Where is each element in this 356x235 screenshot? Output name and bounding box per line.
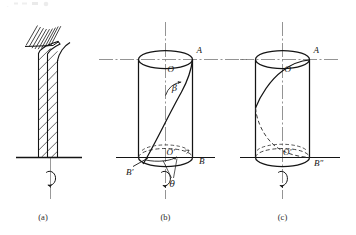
label-bottom-center-c: O′ xyxy=(283,147,292,157)
panel-c: O A O′ B″ (c) xyxy=(240,22,340,222)
figure-root: . xyxy=(0,0,356,235)
label-bottom-center-b: O′ xyxy=(167,147,176,157)
label-point-a-b: A xyxy=(196,45,203,55)
caption-c: (c) xyxy=(278,212,288,222)
column-right-edge-a xyxy=(58,43,71,158)
torque-arrow-a xyxy=(46,171,55,185)
panel-a: (a) xyxy=(16,26,82,223)
label-beta-b: β xyxy=(171,83,177,93)
label-point-bdprime-c: B″ xyxy=(314,158,323,168)
label-point-b-b: B xyxy=(199,156,205,166)
column-hatching-a xyxy=(39,49,59,158)
rotated-section-arc-c xyxy=(257,144,307,151)
label-point-bprime-b: B′ xyxy=(126,167,134,177)
torsion-diagram-svg: . xyxy=(0,0,356,235)
caption-b: (b) xyxy=(161,212,171,222)
label-top-center-c: O xyxy=(285,64,292,74)
scan-artifact: . xyxy=(7,2,48,8)
label-point-a-c: A xyxy=(313,45,320,55)
bprime-leader-b xyxy=(133,158,148,167)
caption-a: (a) xyxy=(38,212,48,222)
scan-artifact-text: . xyxy=(7,3,8,8)
panel-b: O A O′ B B′ β θ (b) xyxy=(99,22,247,222)
theta-leader-2-b xyxy=(174,159,178,179)
label-top-center-b: O xyxy=(168,64,175,74)
label-theta-b: θ xyxy=(170,179,176,189)
